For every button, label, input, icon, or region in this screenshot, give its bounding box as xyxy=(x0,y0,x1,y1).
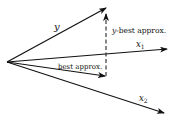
label-residual-text: -best approx. xyxy=(116,26,166,35)
projection-diagram: y y-best approx. x1 best approx. x2 xyxy=(0,0,181,121)
label-x2: x2 xyxy=(139,93,148,104)
vector-x1 xyxy=(7,49,167,62)
label-residual: y-best approx. xyxy=(111,26,166,35)
label-x2-sub: 2 xyxy=(144,97,148,104)
label-x1: x1 xyxy=(136,39,145,50)
vector-y xyxy=(7,8,106,62)
label-x1-sub: 1 xyxy=(141,43,145,50)
label-best-approx: best approx. xyxy=(58,63,102,71)
label-y: y xyxy=(53,21,60,32)
